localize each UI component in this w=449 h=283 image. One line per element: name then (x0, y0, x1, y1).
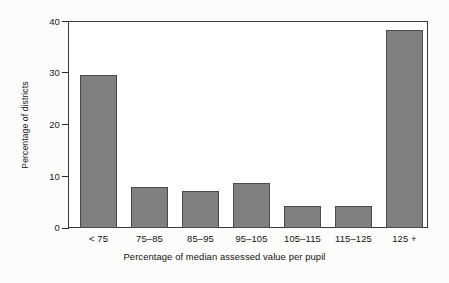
bar-lt-75[interactable] (80, 75, 117, 228)
y-tick-label-20: 20 (18, 119, 60, 130)
y-tick-mark-0 (62, 228, 69, 229)
x-tick-label-lt-75: < 75 (74, 233, 123, 244)
x-tick-label-125-plus: 125 + (380, 233, 429, 244)
x-axis-title: Percentage of median assessed value per … (0, 251, 449, 262)
bar-85-95[interactable] (182, 191, 219, 228)
bar-115-125[interactable] (335, 206, 372, 228)
x-tick-label-75-85: 75–85 (124, 233, 175, 244)
y-axis-tick-labels: 40 30 20 10 0 (12, 0, 60, 283)
x-tick-label-85-95: 85–95 (175, 233, 226, 244)
chart-figure: Percentage of districts 40 30 20 10 0 < … (0, 0, 449, 283)
x-tick-label-115-125: 115–125 (326, 233, 381, 244)
bar-125-plus[interactable] (386, 30, 423, 228)
bar-95-105[interactable] (233, 183, 270, 228)
y-tick-label-10: 10 (18, 171, 60, 182)
bar-105-115[interactable] (284, 206, 321, 228)
bar-75-85[interactable] (131, 187, 168, 228)
y-tick-label-0: 0 (18, 222, 60, 233)
y-tick-label-40: 40 (18, 16, 60, 27)
x-tick-label-95-105: 95–105 (225, 233, 278, 244)
y-tick-label-30: 30 (18, 67, 60, 78)
x-tick-label-105-115: 105–115 (275, 233, 330, 244)
